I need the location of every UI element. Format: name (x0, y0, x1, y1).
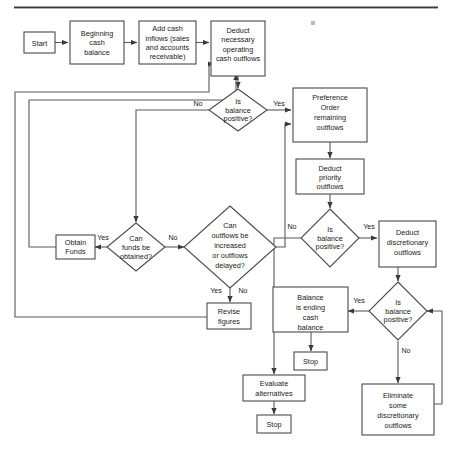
edge-label-bal3-yes: Yes (353, 297, 365, 305)
node-canoutflows-line2: outflows be (212, 231, 249, 240)
node-deductnec-line2: necessary (221, 35, 255, 44)
node-can-funds-be-obtained[interactable]: Can funds be obtained? (107, 223, 165, 271)
node-balending-line1: Balance (297, 293, 323, 302)
header-divider (14, 7, 438, 9)
node-canoutflows-line5: delayed? (215, 261, 245, 270)
node-stop-evaluate[interactable]: Stop (257, 415, 291, 433)
node-deduct-discretionary-outflows[interactable]: Deduct discretionary outflows (379, 221, 436, 267)
page-artifact-mark (311, 21, 315, 25)
node-start[interactable]: Start (24, 32, 55, 53)
node-add-cash-inflows[interactable]: Add cash inflows (sales and accounts rec… (139, 21, 196, 64)
node-evaluate-alternatives[interactable]: Evaluate alternatives (243, 375, 305, 401)
node-preference-order-remaining-outflows[interactable]: Preference Order remaining outflows (293, 88, 367, 142)
node-eliminate-discretionary-outflows[interactable]: Eliminate some discretionary outflows (362, 384, 434, 435)
node-is-balance-positive-1[interactable]: Is balance positive? (209, 89, 267, 131)
node-revise-figures[interactable]: Revise figures (207, 303, 251, 329)
node-deductdisc-line2: discretionary (387, 238, 429, 247)
node-bal1-line3: positive? (224, 114, 253, 123)
node-eliminate-line3: discretionary (377, 411, 419, 420)
node-beginning-line1: Beginning (81, 29, 113, 38)
flowchart-canvas: Start Beginning cash balance Add cash in… (0, 0, 451, 456)
node-revise-line2: figures (218, 317, 240, 326)
node-deductnec-line4: cash outflows (216, 54, 261, 63)
edge-label-canoutflows-no: No (238, 287, 247, 295)
node-deduct-priority-outflows[interactable]: Deduct priority outflows (296, 159, 364, 194)
edge-label-bal2-yes: Yes (363, 223, 375, 231)
node-balending-line4: balance (298, 323, 324, 332)
edge-label-bal3-no: No (401, 347, 410, 355)
node-evaluate-line1: Evaluate (260, 379, 288, 388)
node-canfunds-line2: funds be (122, 243, 150, 252)
edge-label-canoutflows-yes: Yes (210, 287, 222, 295)
node-canoutflows-line3: increased (214, 241, 246, 250)
flowchart-svg: Start Beginning cash balance Add cash in… (0, 0, 451, 456)
node-obtain-line2: Funds (65, 247, 86, 256)
node-balending-line2: is ending (296, 303, 325, 312)
node-canfunds-line3: obtained? (120, 252, 152, 261)
node-is-balance-positive-3[interactable]: Is balance positive? (369, 282, 427, 340)
node-deductpri-line3: outflows (317, 182, 344, 191)
edge-label-canfunds-no: No (168, 234, 177, 242)
node-eliminate-line2: some (389, 401, 407, 410)
node-bal3-line3: positive? (384, 315, 413, 324)
node-pref-line4: outflows (317, 123, 344, 132)
node-eliminate-line4: outflows (385, 421, 412, 430)
node-pref-line1: Preference (312, 93, 348, 102)
node-beginning-line2: cash (89, 38, 104, 47)
edge-revise-loop-addcash (15, 64, 214, 317)
node-addcash-line1: Add cash (152, 24, 182, 33)
node-stop-balance[interactable]: Stop (294, 352, 327, 370)
node-beginning-cash-balance[interactable]: Beginning cash balance (70, 21, 124, 64)
node-beginning-line3: balance (84, 48, 110, 57)
node-balance-is-ending-cash-balance[interactable]: Balance is ending cash balance (273, 287, 348, 332)
edge-label-canfunds-yes: Yes (97, 234, 109, 242)
node-stop-evaluate-label: Stop (266, 420, 281, 429)
node-can-outflows-be-increased-or-delayed[interactable]: Can outflows be increased or outflows de… (184, 206, 276, 288)
node-deductpri-line2: priority (319, 173, 341, 182)
node-canfunds-line1: Can (129, 234, 142, 243)
node-revise-line1: Revise (218, 307, 240, 316)
node-deduct-necessary-outflows[interactable]: Deduct necessary operating cash outflows (211, 21, 265, 76)
node-canoutflows-line1: Can (223, 221, 236, 230)
edge-obtain-loop-deductnec (29, 74, 236, 247)
edge-label-bal1-no: No (193, 100, 202, 108)
node-deductdisc-line3: outflows (394, 248, 421, 257)
node-deductnec-line1: Deduct (226, 26, 249, 35)
node-bal2-line3: positive? (316, 242, 345, 251)
node-deductpri-line1: Deduct (318, 164, 341, 173)
node-pref-line2: Order (321, 103, 340, 112)
edge-label-bal1-yes: Yes (273, 100, 285, 108)
node-stop-balance-label: Stop (303, 357, 318, 366)
node-eliminate-line1: Eliminate (383, 391, 413, 400)
edge-bal1-no-canfunds (136, 110, 209, 222)
node-pref-line3: remaining (314, 113, 346, 122)
node-start-label: Start (32, 39, 47, 48)
edge-label-bal2-no: No (287, 223, 296, 231)
node-is-balance-positive-2[interactable]: Is balance positive? (301, 209, 359, 267)
node-canoutflows-line4: or outflows (212, 251, 248, 260)
node-evaluate-line2: alternatives (255, 389, 293, 398)
node-deductnec-line3: operating (223, 45, 253, 54)
node-addcash-line2: inflows (sales (146, 34, 190, 43)
node-deductdisc-line1: Deduct (396, 228, 419, 237)
node-addcash-line3: and accounts (146, 43, 190, 52)
node-balending-line3: cash (303, 313, 318, 322)
node-obtain-funds[interactable]: Obtain Funds (56, 235, 95, 259)
node-obtain-line1: Obtain (65, 238, 87, 247)
node-addcash-line4: receivable) (150, 52, 186, 61)
